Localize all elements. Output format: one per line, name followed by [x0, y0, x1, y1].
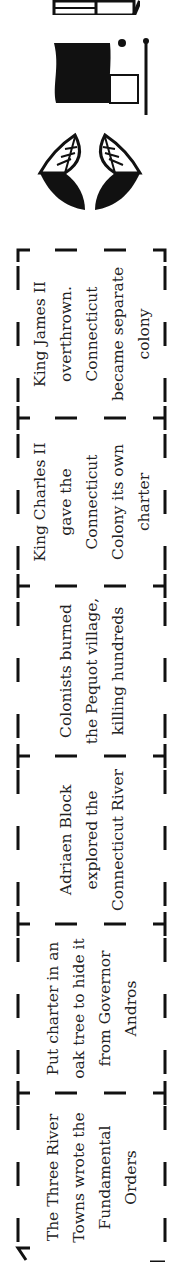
- timeline-stage: The Three River Towns wrote the Fundamen…: [0, 0, 178, 1262]
- flag-scroll-icon: [38, 35, 153, 115]
- house-icon: [40, 0, 140, 15]
- feathers-icon: [35, 130, 145, 215]
